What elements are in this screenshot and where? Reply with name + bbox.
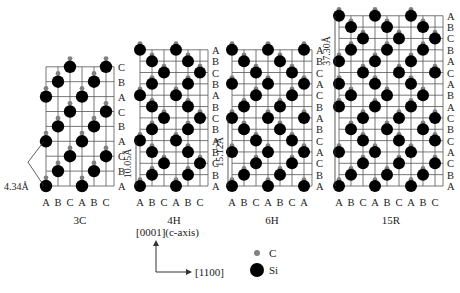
silicon-atom (262, 78, 274, 90)
carbon-atom (44, 86, 49, 91)
column-label: B (419, 197, 426, 208)
silicon-atom (298, 44, 310, 56)
column-label: C (288, 197, 295, 208)
silicon-atom (298, 112, 310, 124)
carbon-atom (44, 175, 49, 180)
silicon-atom (64, 61, 76, 73)
silicon-atom (393, 32, 405, 44)
polytype-name: 4H (167, 214, 181, 226)
silicon-atom (369, 101, 381, 113)
legend-si-label: Si (269, 264, 278, 276)
carbon-atom (80, 175, 85, 180)
column-label: A (300, 197, 308, 208)
silicon-atom (286, 135, 298, 147)
silicon-atom (146, 123, 158, 135)
silicon-atom (405, 78, 417, 90)
silicon-atom (182, 146, 194, 158)
column-label: A (264, 197, 272, 208)
silicon-atom (345, 89, 357, 101)
silicon-atom (405, 10, 417, 22)
polytype-15r: ABCBACABACBCACBAABCABCABC15R37.30Å (321, 7, 455, 226)
silicon-atom (170, 89, 182, 101)
carbon-atom (68, 56, 73, 61)
sic-polytypes-diagram: CBACBACBAABCABC3C4.34ÅABCBABCBABCBAABCAB… (0, 0, 460, 293)
stacking-label: A (316, 79, 324, 90)
carbon-atom (80, 131, 85, 136)
stacking-label: B (316, 102, 323, 113)
column-label: C (395, 197, 402, 208)
silicon-atom (429, 135, 441, 147)
silicon-atom (393, 67, 405, 79)
dimension-label: 4.34Å (4, 181, 30, 192)
carbon-atom (56, 116, 61, 121)
polytype-3c: CBACBACBAABCABC3C4.34Å (4, 56, 126, 226)
silicon-atom (52, 76, 64, 88)
silicon-atom (158, 112, 170, 124)
silicon-atom (357, 157, 369, 169)
stacking-label: B (316, 124, 323, 135)
stacking-label: B (447, 170, 454, 181)
silicon-atom (250, 135, 262, 147)
stacking-label: A (118, 136, 126, 147)
silicon-atom (100, 150, 112, 162)
silicon-atom (158, 67, 170, 79)
silicon-atom (238, 101, 250, 113)
stacking-label: C (316, 90, 323, 101)
silicon-atom (357, 67, 369, 79)
silicon-atom (226, 78, 238, 90)
dimension-label: 15.12Å (214, 136, 225, 167)
stacking-label: C (212, 68, 219, 79)
silicon-atom (88, 76, 100, 88)
column-label: B (184, 197, 191, 208)
stacking-label: C (118, 62, 125, 73)
stacking-label: A (447, 11, 455, 22)
silicon-atom (76, 135, 88, 147)
column-label: B (54, 197, 61, 208)
stacking-label: B (447, 45, 454, 56)
stacking-label: B (447, 22, 454, 33)
silicon-atom (146, 146, 158, 158)
silicon-atom (417, 21, 429, 33)
silicon-atom (52, 165, 64, 177)
stacking-label: B (212, 56, 219, 67)
column-label: A (228, 197, 236, 208)
silicon-atom (182, 55, 194, 67)
silicon-atom (134, 44, 146, 56)
silicon-atom (393, 135, 405, 147)
silicon-atom (146, 78, 158, 90)
silicon-atom (286, 89, 298, 101)
silicon-atom (182, 78, 194, 90)
silicon-atom (298, 180, 310, 192)
silicon-atom (52, 120, 64, 132)
stacking-label: A (212, 181, 220, 192)
column-label: C (359, 197, 366, 208)
polytype-name: 3C (74, 214, 87, 226)
silicon-atom (238, 169, 250, 181)
stacking-label: C (316, 158, 323, 169)
silicon-atom (298, 78, 310, 90)
stacking-label: C (316, 68, 323, 79)
carbon-atom (92, 161, 97, 166)
silicon-atom (182, 123, 194, 135)
stacking-label: A (447, 79, 455, 90)
silicon-atom (369, 10, 381, 22)
stacking-label: C (118, 107, 125, 118)
column-label: C (252, 197, 259, 208)
stacking-label: B (212, 170, 219, 181)
stacking-label: C (447, 68, 454, 79)
silicon-atom (262, 146, 274, 158)
silicon-atom (226, 44, 238, 56)
polytype-name: 6H (265, 214, 279, 226)
silicon-atom (194, 157, 206, 169)
column-label: B (148, 197, 155, 208)
silicon-atom (170, 44, 182, 56)
column-label: B (276, 197, 283, 208)
silicon-atom (100, 61, 112, 73)
silicon-atom (381, 21, 393, 33)
silicon-atom (262, 44, 274, 56)
silicon-atom (88, 165, 100, 177)
silicon-atom (417, 169, 429, 181)
stacking-label: C (316, 136, 323, 147)
column-label: A (371, 197, 379, 208)
silicon-atom (182, 169, 194, 181)
